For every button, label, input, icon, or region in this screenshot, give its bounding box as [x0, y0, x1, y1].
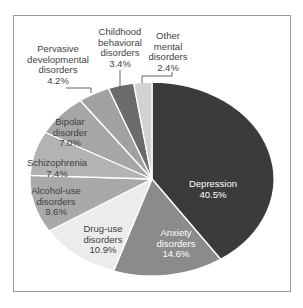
leader-line-other	[142, 72, 172, 83]
pie-chart: Depression40.5%Anxietydisorders14.6%Drug…	[0, 0, 303, 308]
pie-slices	[30, 82, 274, 276]
label-other: Othermentaldisorders2.4%	[148, 30, 187, 73]
label-pervasive: Pervasivedevelopmentaldisorders4.2%	[27, 43, 89, 86]
label-childhood: Childhoodbehavioraldisorders3.4%	[98, 26, 142, 69]
leader-line-pervasive	[66, 88, 91, 93]
